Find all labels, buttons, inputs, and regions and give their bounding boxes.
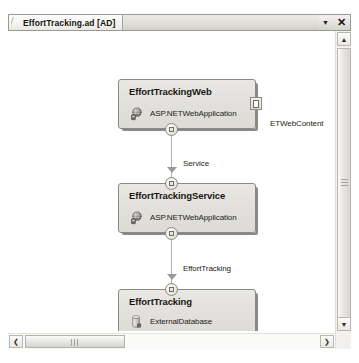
close-icon[interactable]: ✕ [333,15,350,30]
vertical-scrollbar-thumb[interactable] [337,48,351,318]
provider-endpoint-icon[interactable] [250,97,262,110]
port-inner-glyph [169,127,174,132]
port-database-top[interactable] [165,283,178,296]
scroll-down-glyph: ▼ [341,321,348,328]
node-efforttracking-database[interactable]: EffortTracking [118,289,256,331]
node-efforttrackingweb[interactable]: EffortTrackingWeb [118,79,256,129]
architecture-designer-window: EffortTracking.ad [AD] ▼ ✕ Service Effor… [8,14,351,349]
scroll-left-glyph: ❮ [13,338,19,346]
port-inner-glyph [169,231,174,236]
node-title: EffortTracking [129,296,192,307]
endpoint-glyph [253,100,259,108]
port-inner-glyph [169,181,174,186]
chevron-down-glyph: ▼ [322,19,329,26]
node-type-label: ExternalDatabase [150,317,212,326]
node-efforttrackingservice[interactable]: EffortTrackingService [118,183,256,233]
node-type-row: ExternalDatabase [129,314,212,329]
scroll-right-glyph: ❯ [324,338,330,346]
node-title: EffortTrackingWeb [129,86,212,97]
port-service-bottom[interactable] [165,227,178,240]
document-tab-strip: EffortTracking.ad [AD] ▼ ✕ [8,14,351,31]
connector-line-web-service [171,129,172,181]
tab-label: EffortTracking.ad [AD] [23,18,115,28]
diagram-canvas[interactable]: Service EffortTracking EffortTrackingWeb [8,31,335,331]
web-application-icon [129,106,144,121]
connector-label-service: Service [183,159,209,168]
scrollbar-grip [71,339,79,346]
port-service-top[interactable] [165,177,178,190]
node-title: EffortTrackingService [129,190,225,201]
web-application-icon [129,210,144,225]
scroll-up-glyph: ▲ [341,36,348,43]
canvas-frame: Service EffortTracking EffortTrackingWeb [8,31,351,349]
vertical-scrollbar[interactable]: ▲ ▼ [335,31,351,349]
port-inner-glyph [169,287,174,292]
node-type-label: ASP.NETWebApplication [150,109,237,118]
label-etwebcontent: ETWebContent [270,119,323,128]
tab-efforttracking-ad[interactable]: EffortTracking.ad [AD] [9,15,123,30]
close-glyph: ✕ [337,16,346,29]
tab-slant-decoration [11,17,20,30]
connector-label-efforttracking: EffortTracking [183,264,231,273]
scroll-down-icon[interactable]: ▼ [337,317,351,331]
horizontal-scrollbar-thumb[interactable] [25,335,125,348]
scroll-right-icon[interactable]: ❯ [320,335,334,348]
scrollbar-grip [341,179,348,187]
node-type-row: ASP.NETWebApplication [129,210,237,225]
chevron-down-icon[interactable]: ▼ [318,15,333,30]
port-web-bottom[interactable] [165,123,178,136]
scroll-left-icon[interactable]: ❮ [9,335,23,348]
connector-arrowhead-web-service [167,167,177,173]
database-icon [129,314,144,329]
node-type-label: ASP.NETWebApplication [150,213,237,222]
horizontal-scrollbar[interactable]: ❮ ❯ [8,333,335,349]
connector-arrowhead-service-database [167,274,177,280]
scroll-up-icon[interactable]: ▲ [337,32,351,46]
tab-strip-filler [123,15,318,30]
node-type-row: ASP.NETWebApplication [129,106,237,121]
